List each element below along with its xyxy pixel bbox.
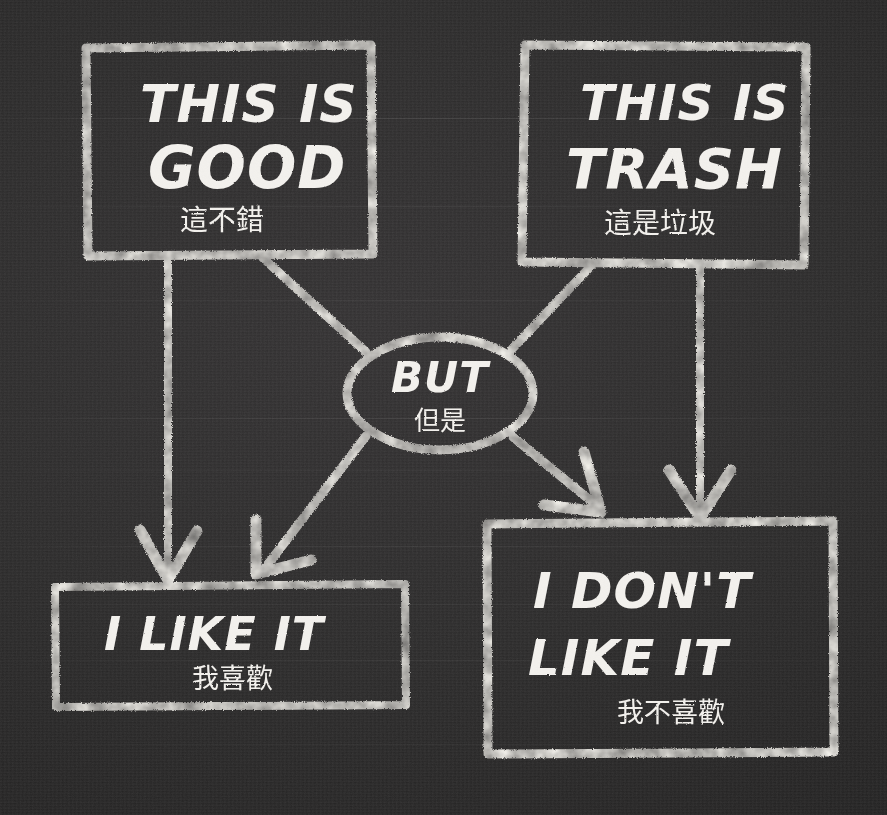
flowchart-diagram: THIS IS GOOD 這不錯 THIS IS TRASH 這是垃圾 BUT … <box>0 0 887 815</box>
board-grain-overlay <box>0 0 887 815</box>
chalkboard-canvas: THIS IS GOOD 這不錯 THIS IS TRASH 這是垃圾 BUT … <box>0 0 887 815</box>
